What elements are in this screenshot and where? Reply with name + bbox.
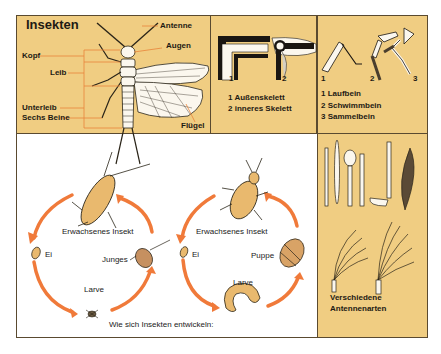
egg-icon-right (179, 246, 189, 259)
legs-marker-2: 2 (370, 74, 374, 83)
antenna-types-illustration (325, 140, 414, 294)
lifecycle-caption: Wie sich Insekten entwickeln: (109, 320, 214, 329)
pupa-illustration (275, 235, 309, 272)
label-larva-incomplete: Larve (84, 285, 104, 294)
legs-legend-2: 2 Schwimmbein (321, 101, 381, 110)
antenna-caption-line2: Antennenarten (330, 304, 386, 313)
antenna-caption-line1: Verschiedene (330, 293, 382, 302)
nymph-illustration (130, 240, 170, 271)
swimming-leg-illustration (372, 32, 398, 80)
label-egg-incomplete: Ei (45, 250, 52, 259)
egg-icon-left (30, 246, 42, 260)
label-adult-complete: Erwachsenes Insekt (196, 227, 268, 236)
skeleton-marker-1: 1 (229, 74, 233, 83)
beetle-illustration (220, 158, 268, 223)
grub-illustration (224, 283, 260, 311)
cockroach-illustration (72, 152, 150, 230)
label-leib: Leib (50, 68, 66, 77)
walking-leg-illustration (322, 42, 362, 72)
skeleton-legend-2: 2 inneres Skelett (228, 104, 292, 113)
legs-marker-3: 3 (413, 74, 417, 83)
skeleton-legend-1: 1 Außenskelett (228, 93, 285, 102)
anatomy-title: Insekten (26, 17, 79, 32)
stonefly-illustration (92, 23, 209, 164)
legs-legend-3: 3 Sammelbein (321, 112, 375, 121)
label-young: Junges (102, 255, 128, 264)
legs-legend-1: 1 Laufbein (321, 89, 361, 98)
label-augen: Augen (166, 41, 191, 50)
legs-marker-1: 1 (321, 74, 325, 83)
label-egg-complete: Ei (192, 250, 199, 259)
label-larva-complete: Larve (233, 278, 253, 287)
label-pupa: Puppe (251, 251, 274, 260)
label-kopf: Kopf (22, 51, 40, 60)
exoskeleton-illustration (218, 36, 270, 80)
label-fluegel: Flügel (181, 121, 205, 130)
label-beine: Sechs Beine (22, 113, 70, 122)
label-unterleib: Unterleib (22, 103, 57, 112)
skeleton-marker-2: 2 (282, 74, 286, 83)
label-antenne: Antenne (160, 21, 192, 30)
label-adult-incomplete: Erwachsenes Insekt (62, 227, 134, 236)
larva-small-illustration (86, 310, 98, 318)
endoskeleton-illustration (272, 38, 316, 80)
